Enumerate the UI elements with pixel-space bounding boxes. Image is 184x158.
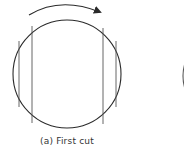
diagram-canvas (0, 0, 184, 158)
workpiece-circle (13, 20, 121, 128)
figure-caption: (a) First cut (0, 136, 134, 146)
partial-circle-next-figure (183, 60, 184, 92)
rotation-arrow-icon (29, 5, 100, 15)
